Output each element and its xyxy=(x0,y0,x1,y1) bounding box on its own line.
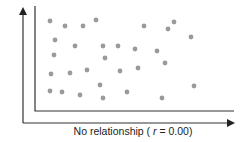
data-point xyxy=(52,53,57,58)
x-label-suffix: = 0.00) xyxy=(156,125,192,137)
data-point xyxy=(142,24,147,29)
data-point xyxy=(160,96,165,101)
data-point xyxy=(125,90,130,95)
data-point xyxy=(85,68,90,73)
data-point xyxy=(49,72,54,77)
data-point xyxy=(172,20,177,25)
data-points xyxy=(48,18,197,101)
data-point xyxy=(81,24,86,29)
data-point xyxy=(98,83,103,88)
data-point xyxy=(94,18,99,23)
data-point xyxy=(155,49,160,54)
x-axis-label: No relationship ( r = 0.00) xyxy=(74,125,193,137)
data-point xyxy=(116,44,121,49)
data-point xyxy=(118,69,123,74)
data-point xyxy=(78,93,83,98)
data-point xyxy=(166,27,171,32)
data-point xyxy=(68,71,73,76)
data-point xyxy=(192,84,197,89)
data-point xyxy=(48,89,53,94)
plot-frame xyxy=(35,6,234,111)
data-point xyxy=(63,24,68,29)
data-point xyxy=(101,44,106,49)
scatter-chart: No relationship ( r = 0.00) xyxy=(0,0,252,142)
data-point xyxy=(103,56,108,61)
data-point xyxy=(53,38,58,43)
data-point xyxy=(189,35,194,40)
data-point xyxy=(101,96,106,101)
data-point xyxy=(48,19,53,24)
data-point xyxy=(133,47,138,52)
data-point xyxy=(163,61,168,66)
data-point xyxy=(136,66,141,71)
x-label-prefix: No relationship ( xyxy=(74,125,153,137)
data-point xyxy=(60,90,65,95)
data-point xyxy=(73,44,78,49)
